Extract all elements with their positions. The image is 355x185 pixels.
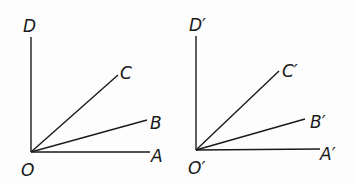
angle-diagram: ABCDOA′B′C′D′O′ [0,0,355,185]
point-label: A [150,146,163,166]
figure-left: ABCDO [21,16,163,180]
diagram-canvas: ABCDOA′B′C′D′O′ [0,0,355,185]
point-label: B [150,113,162,133]
figure-right: A′B′C′D′O′ [188,15,336,178]
point-label: D′ [189,15,206,35]
point-label: B′ [310,112,326,132]
vertex-label: O [21,160,34,180]
point-label: C′ [282,61,298,81]
point-label: A′ [319,144,336,164]
point-label: C [120,63,132,83]
ray-right-0 [196,149,320,150]
vertex-label: O′ [188,158,205,178]
point-label: D [23,16,36,36]
